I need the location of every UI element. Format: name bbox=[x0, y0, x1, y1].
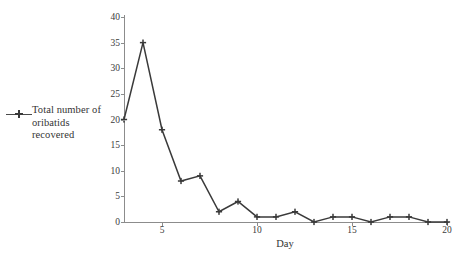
data-point-marker bbox=[406, 214, 412, 220]
y-tick-mark bbox=[121, 94, 125, 95]
plot-area: 0510152025303540 5101520 Day bbox=[0, 0, 463, 259]
y-tick-mark bbox=[121, 120, 125, 121]
data-point-marker bbox=[159, 127, 165, 133]
y-tick-mark bbox=[121, 68, 125, 69]
data-point-marker bbox=[349, 214, 355, 220]
data-point-marker bbox=[216, 209, 222, 215]
data-point-marker bbox=[425, 219, 431, 225]
data-point-marker bbox=[197, 173, 203, 179]
series-markers bbox=[121, 40, 450, 226]
x-axis-title: Day bbox=[255, 238, 315, 249]
data-point-marker bbox=[444, 219, 450, 225]
y-tick-mark bbox=[121, 145, 125, 146]
data-point-marker bbox=[387, 214, 393, 220]
y-tick-mark bbox=[121, 196, 125, 197]
y-tick-mark bbox=[121, 43, 125, 44]
data-point-marker bbox=[140, 40, 146, 46]
data-point-marker bbox=[178, 178, 184, 184]
data-point-marker bbox=[368, 219, 374, 225]
series-plot bbox=[0, 0, 463, 259]
chart-figure: Total number of oribatids recovered 0510… bbox=[0, 0, 463, 259]
data-point-marker bbox=[330, 214, 336, 220]
data-point-marker bbox=[311, 219, 317, 225]
data-point-marker bbox=[292, 209, 298, 215]
data-point-marker bbox=[273, 214, 279, 220]
series-line bbox=[124, 43, 447, 222]
y-tick-mark bbox=[121, 222, 125, 223]
y-tick-mark bbox=[121, 171, 125, 172]
y-tick-mark bbox=[121, 17, 125, 18]
